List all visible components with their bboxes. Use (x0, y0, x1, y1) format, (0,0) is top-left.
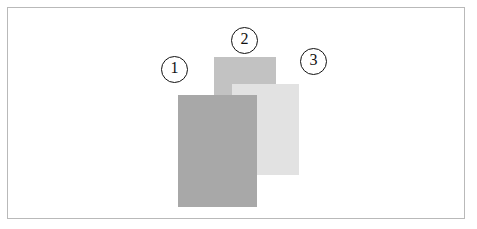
figure-stage: 1 2 3 (0, 0, 477, 229)
figure-container: 1 2 3 (0, 0, 477, 229)
callout-marker-1: 1 (161, 56, 188, 83)
sheet-rectangle-1 (178, 95, 257, 207)
callout-marker-3: 3 (300, 48, 327, 75)
callout-marker-2: 2 (231, 27, 258, 54)
